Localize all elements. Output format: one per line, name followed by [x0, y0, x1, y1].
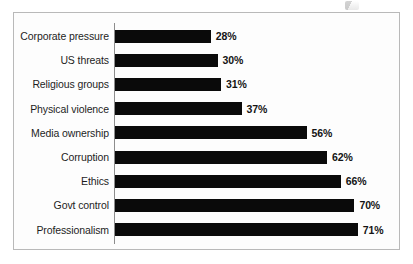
plot-area: Corporate pressure28%US threats30%Religi…	[14, 13, 399, 249]
bar-fill	[115, 54, 218, 67]
bar-fill	[115, 223, 358, 236]
bar-row: Ethics66%	[14, 169, 399, 193]
bar-value-label: 71%	[363, 224, 384, 236]
bar-fill	[115, 102, 242, 115]
bar-fill	[115, 151, 327, 164]
bar-row: Physical violence37%	[14, 97, 399, 121]
bar-row: Professionalism71%	[14, 218, 399, 242]
scan-speckle-artifact	[345, 1, 359, 10]
bar-value-label: 70%	[359, 199, 380, 211]
category-label: Religious groups	[14, 78, 109, 90]
category-label: Corruption	[14, 151, 109, 163]
bar-track: 37%	[115, 102, 397, 115]
bar-fill	[115, 199, 354, 212]
bar-fill	[115, 126, 307, 139]
category-label: Ethics	[14, 175, 109, 187]
category-label: Corporate pressure	[14, 30, 109, 42]
chart-frame: Corporate pressure28%US threats30%Religi…	[13, 12, 400, 250]
category-label: Media ownership	[14, 127, 109, 139]
bar-value-label: 56%	[312, 127, 333, 139]
bar-chart-screenshot: Corporate pressure28%US threats30%Religi…	[0, 0, 413, 264]
bar-track: 31%	[115, 78, 397, 91]
bar-track: 62%	[115, 151, 397, 164]
bar-value-label: 28%	[216, 30, 237, 42]
category-label: US threats	[14, 54, 109, 66]
bar-value-label: 66%	[346, 175, 367, 187]
category-label: Professionalism	[14, 224, 109, 236]
bars-container: Corporate pressure28%US threats30%Religi…	[14, 24, 399, 244]
category-label: Govt control	[14, 199, 109, 211]
bar-fill	[115, 175, 341, 188]
bar-row: Corporate pressure28%	[14, 24, 399, 48]
bar-row: Media ownership56%	[14, 121, 399, 145]
bar-track: 66%	[115, 175, 397, 188]
bar-row: Religious groups31%	[14, 72, 399, 96]
bar-row: US threats30%	[14, 48, 399, 72]
bar-track: 28%	[115, 30, 397, 43]
bar-value-label: 30%	[223, 54, 244, 66]
bar-track: 30%	[115, 54, 397, 67]
bar-row: Govt control70%	[14, 193, 399, 217]
category-label: Physical violence	[14, 103, 109, 115]
bar-value-label: 62%	[332, 151, 353, 163]
bar-track: 70%	[115, 199, 397, 212]
bar-fill	[115, 78, 221, 91]
bar-track: 56%	[115, 126, 397, 139]
bar-value-label: 31%	[226, 78, 247, 90]
bar-track: 71%	[115, 223, 397, 236]
bar-value-label: 37%	[247, 103, 268, 115]
bar-row: Corruption62%	[14, 145, 399, 169]
bar-fill	[115, 30, 211, 43]
